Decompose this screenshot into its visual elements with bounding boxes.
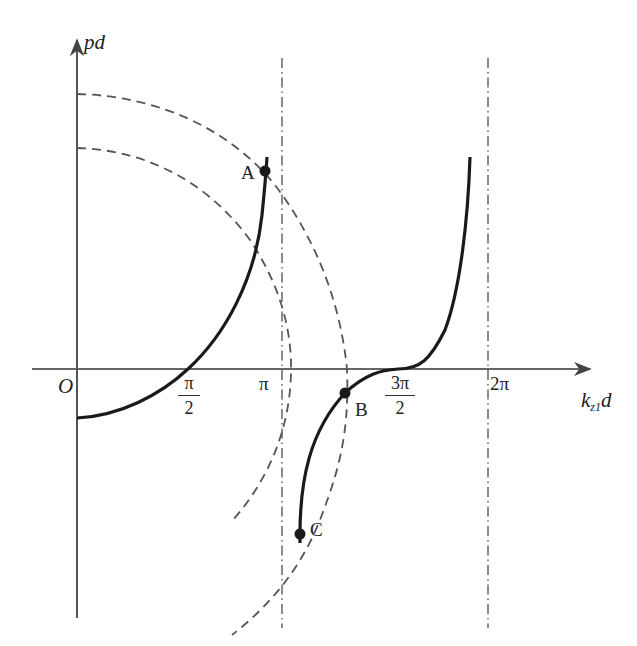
tick-pi: π	[259, 374, 269, 393]
tick-pi-half: π 2	[178, 374, 200, 417]
inner-dashed-circle	[77, 148, 291, 520]
point-c-marker	[295, 529, 306, 540]
point-b-label: B	[355, 400, 368, 419]
tick-pi-half-num: π	[178, 374, 200, 395]
curve-branch-1	[77, 157, 267, 418]
point-a-label: A	[241, 163, 255, 182]
curve-branch-2	[300, 157, 470, 543]
x-axis-label: kz1d	[581, 390, 612, 413]
tick-pi-half-den: 2	[178, 396, 200, 417]
origin-label: O	[58, 376, 73, 397]
x-axis-label-d: d	[601, 388, 612, 412]
tick-three-pi-half-num: 3π	[385, 374, 415, 395]
tick-two-pi: 2π	[490, 374, 509, 393]
point-b-marker	[340, 388, 351, 399]
dispersion-diagram	[0, 0, 637, 646]
tick-three-pi-half-den: 2	[385, 396, 415, 417]
y-axis-label: pd	[84, 32, 105, 53]
x-axis-label-k: k	[581, 388, 590, 412]
point-c-label: C	[310, 520, 323, 539]
outer-dashed-circle	[77, 94, 347, 635]
x-axis-label-subscript: z1	[590, 400, 601, 414]
point-a-marker	[260, 166, 271, 177]
tick-three-pi-half: 3π 2	[385, 374, 415, 417]
